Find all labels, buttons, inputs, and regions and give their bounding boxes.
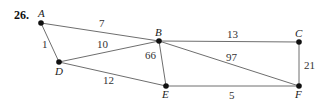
vertex-label: D [54,65,63,77]
vertex-label: B [155,26,162,38]
vertex-label: C [295,27,303,39]
vertex-d [56,59,62,65]
vertex-b [156,38,162,44]
edge-weight: 12 [103,74,114,86]
edge-b-f [159,41,299,86]
node-layer [38,20,302,89]
edge-weight: 1 [42,38,48,50]
edge-layer [41,23,299,86]
edge-weight: 13 [227,28,239,40]
weighted-graph: 26. 711012661397215 ABCDEF [0,0,327,100]
edge-b-e [159,41,166,86]
edge-d-b [59,41,159,62]
vertex-c [296,39,302,45]
edge-b-c [159,41,299,42]
vertex-label: F [294,88,302,100]
vertex-label: E [161,88,169,100]
edge-weight: 10 [97,38,109,50]
edge-weight: 7 [99,17,105,29]
edge-weight: 21 [304,59,315,71]
vertex-a [38,20,44,26]
problem-number: 26. [14,8,29,22]
edge-weight: 66 [145,49,157,61]
edge-weight: 97 [226,51,238,63]
edge-weight: 5 [229,89,235,100]
vertex-label: A [37,7,45,19]
